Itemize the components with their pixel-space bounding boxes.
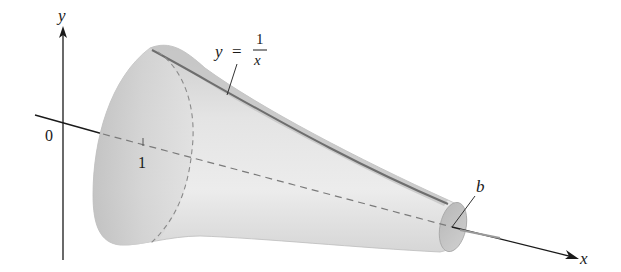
endpoint-b-label: b [476,177,485,196]
tick-label-1: 1 [138,154,146,171]
x-axis-arrowhead-icon [565,250,579,259]
origin-label: 0 [45,127,53,144]
equation-numerator: 1 [256,31,264,47]
curve-equation-label: y = 1 x [213,31,267,68]
equation-equals: = [232,42,242,61]
y-axis-label: y [56,6,66,25]
x-axis-label: x [579,249,588,268]
solid-of-revolution-diagram: y x 0 1 y = 1 x b [0,0,621,272]
equation-denominator: x [253,52,261,68]
equation-lhs: y [213,42,223,61]
x-axis-shadow-arrow [460,230,500,238]
